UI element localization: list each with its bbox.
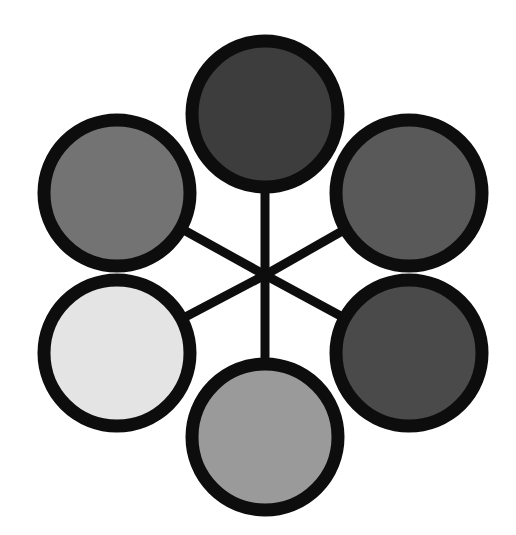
radial-diagram-svg	[0, 0, 516, 535]
radial-diagram-canvas	[0, 0, 516, 535]
center-hub-dot	[260, 270, 270, 280]
circle-top[interactable]	[192, 41, 338, 187]
circle-upper-right[interactable]	[336, 120, 482, 266]
center-hub	[260, 270, 270, 280]
circle-lower-right[interactable]	[336, 280, 482, 426]
circle-lower-left[interactable]	[44, 280, 190, 426]
circle-upper-left[interactable]	[44, 120, 190, 266]
circle-bottom[interactable]	[192, 364, 338, 510]
